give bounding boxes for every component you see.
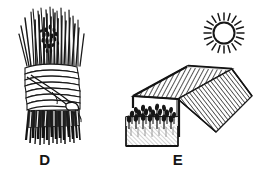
figure-plate: D E — [0, 0, 268, 183]
figure-label-e: E — [169, 152, 187, 167]
figure-label-d: D — [36, 152, 54, 167]
